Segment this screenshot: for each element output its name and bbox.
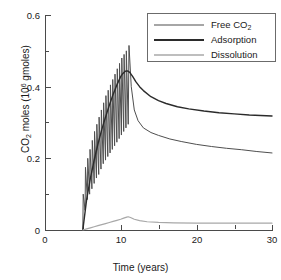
legend-label-dissolution: Dissolution	[211, 49, 257, 60]
legend-swatch-free-co2	[154, 20, 204, 30]
legend-item-dissolution: Dissolution	[148, 47, 277, 62]
legend-item-adsorption: Adsorption	[148, 32, 277, 47]
x-tick-label-0: 0	[25, 234, 65, 245]
y-tick-label-0.2: 0.2	[14, 153, 40, 164]
legend: Free CO2 Adsorption Dissolution	[147, 13, 276, 62]
x-tick-label-30: 30	[252, 234, 281, 245]
x-tick-label-10: 10	[101, 234, 141, 245]
x-axis-label: Time (years)	[0, 262, 281, 273]
series-path-dissolution	[83, 217, 272, 230]
y-axis-label-text: CO2 moles (106 gmoles)	[20, 45, 31, 153]
x-tick-label-20: 20	[177, 234, 217, 245]
figure-container: CO2 moles (106 gmoles) 0 0.2 0.4 0.6 0 1…	[0, 0, 281, 280]
legend-swatch-dissolution	[154, 50, 204, 60]
legend-item-free-co2: Free CO2	[148, 17, 277, 32]
legend-label-free-co2: Free CO2	[211, 19, 251, 31]
legend-swatch-adsorption	[154, 35, 204, 45]
y-tick-label-0.6: 0.6	[14, 10, 40, 21]
series-path-free-co2	[83, 45, 272, 230]
y-tick-label-0.4: 0.4	[14, 82, 40, 93]
legend-label-adsorption: Adsorption	[211, 34, 256, 45]
